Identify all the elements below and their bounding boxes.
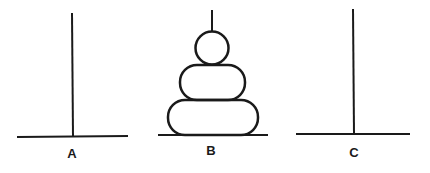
disk-medium <box>180 65 245 100</box>
peg-a-base <box>17 136 128 137</box>
peg-a-label: A <box>67 146 77 161</box>
peg-b-label: B <box>206 143 215 158</box>
peg-c-rod <box>353 9 354 134</box>
tower-of-hanoi-diagram: A B C <box>0 0 430 173</box>
peg-c: C <box>296 9 410 160</box>
peg-a-rod <box>72 13 73 137</box>
peg-c-label: C <box>349 145 359 160</box>
disk-small <box>196 32 229 65</box>
disk-large <box>168 100 258 135</box>
peg-a: A <box>17 13 128 161</box>
peg-b: B <box>158 10 268 158</box>
